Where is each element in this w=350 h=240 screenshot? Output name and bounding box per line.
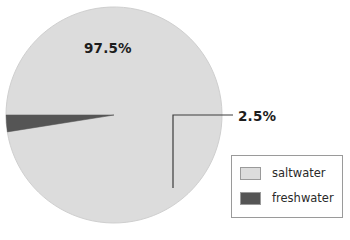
legend-label-saltwater: saltwater	[272, 166, 326, 180]
pie-chart-figure: 97.5% 2.5% saltwater freshwater	[0, 0, 350, 240]
legend-swatch-saltwater	[240, 167, 261, 180]
legend-label-freshwater: freshwater	[272, 191, 334, 205]
legend-item-freshwater[interactable]: freshwater	[240, 191, 334, 205]
slice-label-saltwater-percent: 97.5%	[84, 40, 132, 56]
slice-label-freshwater-percent: 2.5%	[238, 108, 276, 124]
legend-swatch-freshwater	[240, 192, 261, 205]
chart-legend: saltwater freshwater	[231, 155, 343, 218]
legend-item-saltwater[interactable]: saltwater	[240, 166, 326, 180]
